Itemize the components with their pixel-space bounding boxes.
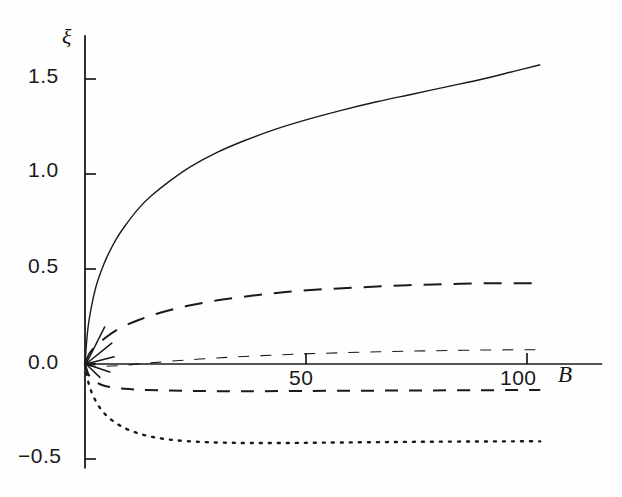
y-tick-label-minus-0.5: −0.5 [18, 444, 61, 468]
curve-2-long-dash [85, 283, 540, 364]
y-tick-label-1.5: 1.5 [28, 64, 59, 88]
curve-1-solid [85, 65, 540, 364]
ray-solid-up [86, 327, 105, 364]
x-tick-label-50: 50 [289, 366, 313, 390]
y-tick-label-0.5: 0.5 [28, 254, 59, 278]
y-tick-label-0.0: 0.0 [28, 350, 59, 374]
tick-marks-group [85, 79, 527, 459]
y-axis-title: ξ [62, 24, 71, 50]
chart-plot-area [0, 0, 622, 497]
figure-canvas: ξ 1.5 1.0 0.5 0.0 −0.5 50 100 B [0, 0, 622, 497]
x-tick-label-100: 100 [500, 366, 537, 390]
x-axis-title: B [558, 362, 572, 388]
y-tick-label-1.0: 1.0 [28, 158, 59, 182]
axis-group [85, 35, 602, 468]
